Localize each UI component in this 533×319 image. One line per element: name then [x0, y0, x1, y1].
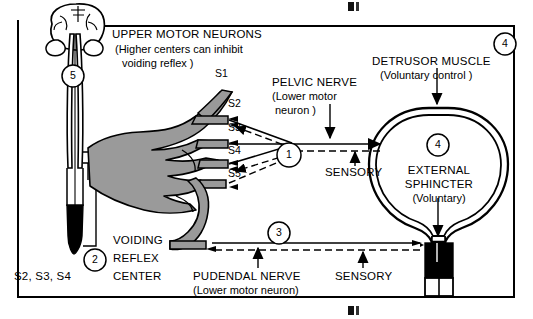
- pelvic-nerve-motor-pathway: [229, 120, 380, 164]
- pelvic-nerve-note-1: (Lower motor: [272, 90, 337, 102]
- conus-medullaris: [67, 168, 83, 254]
- external-sphincter-title-2: SPHINCTER: [399, 178, 479, 191]
- pudendal-nerve-title: PUDENDAL NERVE: [193, 270, 301, 283]
- pelvic-nerve-sensory-pathway: [229, 122, 380, 190]
- voiding-reflex-center-line-1: VOIDING: [113, 234, 163, 247]
- voiding-reflex-center-line-2: REFLEX: [113, 252, 159, 265]
- voiding-reflex-center-roots: S2, S3, S4: [14, 270, 71, 283]
- detrusor-muscle-title: DETRUSOR MUSCLE: [372, 55, 491, 68]
- sacral-root-label-s4: S4: [228, 145, 241, 157]
- marker-4-bladder-label: 4: [428, 139, 448, 151]
- sacral-root-label-s1: S1: [215, 68, 228, 80]
- pelvic-sensory-label: SENSORY: [325, 166, 382, 179]
- marker-2-label: 2: [85, 254, 105, 266]
- micturition-control-diagram: UPPER MOTOR NEURONS (Higher centers can …: [0, 0, 533, 319]
- upper-motor-neurons-note-1: (Higher centers can inhibit: [115, 43, 243, 55]
- sacral-root-label-s5: S5: [228, 168, 241, 180]
- pudendal-nerve-note: (Lower motor neuron): [193, 284, 299, 296]
- marker-4-corner-label: 4: [495, 38, 515, 50]
- pelvic-nerve-title: PELVIC NERVE: [272, 76, 357, 89]
- upper-motor-neurons-note-2: voiding reflex ): [122, 57, 194, 69]
- pudendal-sensory-label: SENSORY: [335, 270, 392, 283]
- cauda-equina-nerve-roots: [88, 90, 232, 250]
- sacral-root-label-s3: S3: [228, 122, 241, 134]
- scan-artifact-bottom: [348, 306, 359, 315]
- sacral-root-label-s2: S2: [228, 98, 241, 110]
- pelvic-nerve-note-2: neuron ): [275, 104, 316, 116]
- urethra-sphincter: [425, 243, 453, 296]
- voiding-reflex-center-line-3: CENTER: [113, 270, 161, 283]
- marker-1-label: 1: [279, 149, 299, 161]
- scan-artifact-top: [348, 2, 359, 11]
- external-sphincter-block: [425, 243, 453, 278]
- detrusor-muscle-note: (Voluntary control ): [380, 69, 472, 81]
- pudendal-nerve-pathway: [206, 240, 424, 252]
- external-sphincter-note: (Voluntary): [399, 192, 479, 204]
- external-sphincter-title-1: EXTERNAL: [399, 164, 479, 177]
- marker-3-label: 3: [269, 227, 289, 239]
- marker-5-label: 5: [63, 70, 83, 82]
- upper-motor-neurons-title: UPPER MOTOR NEURONS: [112, 28, 262, 41]
